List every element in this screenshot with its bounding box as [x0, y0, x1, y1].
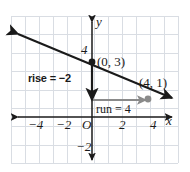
x-tick-minus2: −2 [56, 118, 71, 131]
origin-label: O [82, 118, 91, 131]
coordinate-plane-figure: y x O −4 −2 2 4 4 −2 (0, 3) (4, 1) rise … [0, 0, 190, 172]
rise-annotation-label: rise = −2 [28, 73, 71, 84]
x-axis-label: x [166, 114, 172, 127]
y-tick-minus2: −2 [76, 140, 91, 153]
run-annotation-label: run = 4 [96, 103, 131, 115]
x-tick-minus4: −4 [28, 118, 43, 131]
x-tick-4: 4 [150, 118, 157, 131]
point-0-3 [89, 59, 96, 66]
point-0-3-label: (0, 3) [97, 55, 125, 68]
y-tick-4: 4 [81, 43, 88, 56]
point-4-1 [145, 96, 152, 103]
point-4-1-label: (4, 1) [139, 76, 167, 89]
y-axis-label: y [96, 15, 102, 28]
x-tick-2: 2 [119, 118, 126, 131]
